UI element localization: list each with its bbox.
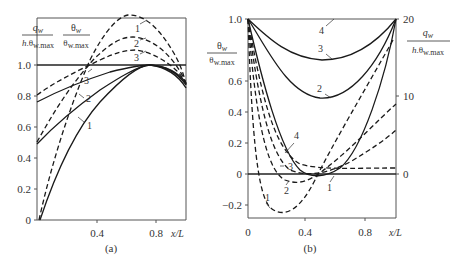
svg-text:0: 0: [245, 226, 251, 238]
panel-a-y-tick-labels: 0 0.2 0.4 0.6 0.8 1.0: [17, 59, 31, 226]
panel-a: 0 0.2 0.4 0.6 0.8 1.0 0.4 0.8 x/L (a) qw…: [17, 15, 186, 255]
svg-text:0.2: 0.2: [228, 137, 242, 149]
panel-a-curves: [37, 15, 186, 220]
panel-a-ylabel-left: qw h.θw.max: [22, 22, 54, 50]
svg-text:4: 4: [319, 25, 324, 36]
panel-a-x-tick-labels: 0.4 0.8: [90, 227, 163, 239]
svg-text:2: 2: [284, 185, 289, 196]
svg-text:0.6: 0.6: [228, 75, 242, 87]
figure: 0 0.2 0.4 0.6 0.8 1.0 0.4 0.8 x/L (a) qw…: [0, 0, 455, 264]
svg-text:1.0: 1.0: [228, 13, 242, 25]
svg-text:0.4: 0.4: [298, 226, 312, 238]
svg-text:0.4: 0.4: [17, 152, 31, 164]
panel-a-xlabel: x/L: [170, 228, 184, 239]
svg-text:0.8: 0.8: [358, 226, 372, 238]
svg-text:h.θw.max: h.θw.max: [412, 45, 444, 57]
panel-a-ylabel-mid: θw θw.max: [63, 22, 90, 50]
svg-text:0.2: 0.2: [17, 183, 31, 195]
svg-text:−0.2: −0.2: [222, 199, 242, 211]
svg-text:0.6: 0.6: [17, 121, 31, 133]
panel-a-curve-solid-3: [37, 65, 186, 102]
panel-a-curve-dashed-3: [37, 50, 186, 95]
panel-b-annotations: 4 3 2 4 3 2 1 1: [265, 19, 334, 208]
svg-text:0.8: 0.8: [149, 227, 163, 239]
svg-text:0: 0: [403, 168, 409, 180]
svg-text:θw: θw: [217, 40, 228, 53]
svg-text:h.θw.max: h.θw.max: [22, 38, 54, 50]
svg-text:1: 1: [327, 182, 332, 193]
panel-a-curve-dashed-1: [39, 15, 186, 220]
svg-text:2: 2: [86, 93, 91, 104]
svg-text:0: 0: [26, 214, 32, 226]
panel-b: 1.0 0.6 0.4 0.2 0 −0.2 20 10 0 0 0.4 0.8…: [207, 13, 450, 255]
panel-b-ylabel-right: qw h.θw.max: [407, 27, 450, 57]
svg-text:θw.max: θw.max: [63, 38, 88, 50]
svg-text:4: 4: [294, 130, 299, 141]
panel-b-y-right-tick-labels: 20 10 0: [403, 13, 415, 180]
panel-a-annotations: 1 2 3 1 2 3: [78, 20, 147, 131]
svg-text:0.4: 0.4: [90, 227, 104, 239]
panel-a-curve-solid-1: [40, 65, 186, 220]
svg-text:3: 3: [288, 161, 293, 172]
svg-text:2: 2: [134, 38, 139, 49]
svg-text:0.8: 0.8: [17, 90, 31, 102]
svg-text:10: 10: [403, 90, 415, 102]
svg-text:3: 3: [318, 43, 323, 54]
svg-text:θw: θw: [71, 22, 82, 35]
svg-text:2: 2: [317, 83, 322, 94]
panel-a-frame: [37, 18, 186, 220]
svg-text:1: 1: [135, 23, 140, 34]
svg-text:20: 20: [403, 13, 415, 25]
svg-text:1.0: 1.0: [17, 59, 31, 71]
panel-a-y-ticks: [34, 65, 156, 223]
panel-b-caption: (b): [304, 242, 317, 255]
svg-text:1: 1: [265, 192, 270, 203]
panel-b-ylabel-left: θw θw.max: [207, 40, 237, 67]
svg-text:qw: qw: [423, 27, 434, 40]
panel-b-x-tick-labels: 0 0.4 0.8: [245, 226, 372, 238]
svg-text:0.4: 0.4: [228, 106, 242, 118]
svg-text:3: 3: [134, 52, 139, 63]
svg-text:0: 0: [237, 168, 243, 180]
panel-a-caption: (a): [105, 242, 118, 255]
svg-text:θw.max: θw.max: [209, 55, 234, 67]
panel-b-y-tick-labels: 1.0 0.6 0.4 0.2 0 −0.2: [222, 13, 242, 211]
svg-text:1: 1: [87, 120, 92, 131]
svg-text:3: 3: [84, 75, 89, 86]
panel-b-xlabel: x/L: [388, 227, 402, 238]
svg-text:qw: qw: [33, 22, 44, 35]
